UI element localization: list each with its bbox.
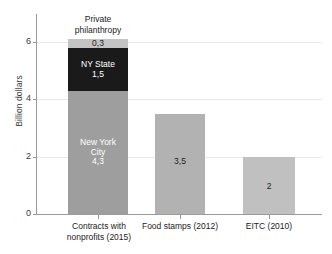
bar1-philanthropy-label-line1: Private <box>60 14 136 25</box>
x-tick-mark-2 <box>180 215 181 219</box>
y-tick-label-2: 2 <box>11 152 31 161</box>
bar1-segment-ny-state-value: 1,5 <box>92 70 104 80</box>
bar1-segment-private-philanthropy[interactable]: 0,3 <box>68 39 128 48</box>
bar1-philanthropy-label: Private philanthropy <box>60 14 136 35</box>
bar1-philanthropy-label-line2: philanthropy <box>60 25 136 36</box>
y-tick-mark-6 <box>33 42 37 43</box>
y-axis-line <box>36 14 37 215</box>
x-axis-label-eitc-line1: EITC (2010) <box>229 221 309 232</box>
bar-food-stamps[interactable]: 3,5 <box>155 114 205 214</box>
x-axis-label-food-stamps: Food stamps (2012) <box>134 221 226 232</box>
y-tick-label-6: 6 <box>11 37 31 46</box>
x-tick-mark-3 <box>269 215 270 219</box>
bar1-segment-new-york-city[interactable]: New York City 4,3 <box>68 91 128 214</box>
bar1-segment-private-philanthropy-value: 0,3 <box>92 39 104 49</box>
x-tick-mark-1 <box>98 215 99 219</box>
x-axis-label-contracts-with-nonprofits: Contracts with nonprofits (2015) <box>52 221 146 243</box>
bar-eitc-value: 2 <box>243 181 295 191</box>
bar1-segment-new-york-city-value: 4,3 <box>92 157 104 167</box>
bar-chart: Billion dollars 6 4 2 0 Private philanth… <box>0 0 332 254</box>
bar-eitc[interactable]: 2 <box>243 157 295 214</box>
y-tick-label-4: 4 <box>11 94 31 103</box>
bar-food-stamps-value: 3,5 <box>155 156 205 166</box>
x-axis-label-eitc: EITC (2010) <box>229 221 309 232</box>
x-axis-label-contracts-line1: Contracts with <box>52 221 146 232</box>
y-tick-mark-0 <box>33 214 37 215</box>
x-axis-label-contracts-line2: nonprofits (2015) <box>52 232 146 243</box>
y-tick-mark-2 <box>33 157 37 158</box>
x-axis-label-food-stamps-line1: Food stamps (2012) <box>134 221 226 232</box>
y-tick-mark-4 <box>33 99 37 100</box>
bar-contracts-with-nonprofits[interactable]: 0,3 NY State 1,5 New York City 4,3 <box>68 39 128 214</box>
x-axis-line <box>36 214 322 215</box>
bar1-segment-ny-state[interactable]: NY State 1,5 <box>68 48 128 91</box>
y-tick-label-0: 0 <box>11 209 31 218</box>
